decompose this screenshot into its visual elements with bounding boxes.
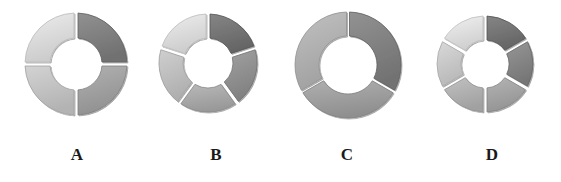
- donut-segment: [303, 81, 393, 118]
- donut-chart-c: [295, 12, 401, 118]
- chart-label-c: C: [327, 145, 367, 165]
- donut-segment: [25, 66, 74, 115]
- donut-segment: [25, 13, 74, 62]
- donut-segment: [224, 50, 257, 102]
- donut-segment: [487, 78, 526, 112]
- donut-segment: [437, 42, 463, 86]
- donut-segment: [507, 42, 533, 86]
- donut-segment: [159, 50, 192, 102]
- donut-segment: [444, 16, 483, 50]
- donut-figure: A B C D: [0, 0, 561, 182]
- donut-segment: [78, 13, 127, 62]
- chart-label-a: A: [57, 145, 97, 165]
- donut-chart-a: [25, 13, 127, 115]
- chart-label-d: D: [472, 145, 512, 165]
- donut-segment: [181, 84, 235, 112]
- donut-segment: [162, 14, 206, 53]
- donut-segment: [210, 14, 254, 53]
- donut-segment: [78, 66, 127, 115]
- donut-segment: [295, 12, 347, 90]
- donut-segment: [444, 78, 483, 112]
- donut-segment: [349, 12, 401, 90]
- donut-chart-d: [437, 16, 533, 112]
- donut-chart-b: [159, 14, 257, 112]
- donut-segment: [487, 16, 526, 50]
- chart-label-b: B: [196, 145, 236, 165]
